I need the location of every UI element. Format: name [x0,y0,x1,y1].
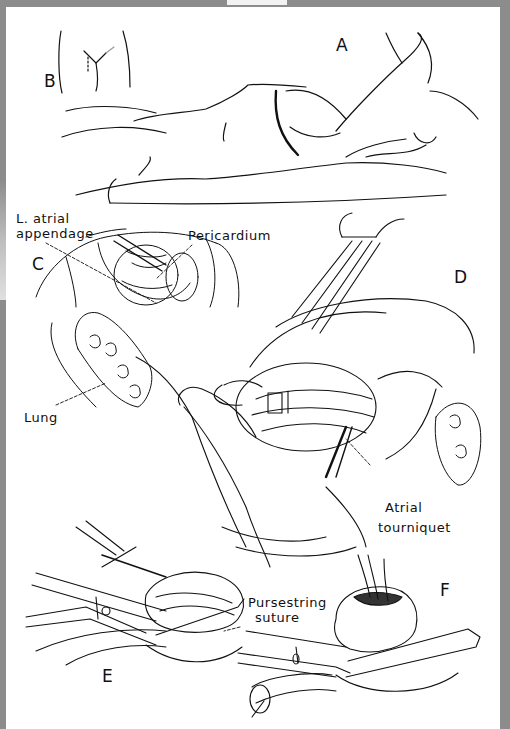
label-lung: Lung [24,411,58,425]
panel-e-drawing [26,521,244,665]
leader-atrial-tourniquet [346,439,370,465]
panel-label-e: E [102,668,113,685]
leader-l-atrial-appendage [46,243,156,303]
panel-label-d: D [454,269,467,286]
leader-lung [56,383,106,405]
panel-label-f: F [440,582,450,599]
label-l-atrial-appendage-line2: appendage [16,227,94,241]
panel-label-c: C [32,256,44,273]
bed-outline [76,157,446,204]
panel-label-b: B [44,73,56,90]
label-pericardium: Pericardium [188,229,271,243]
panel-a-drawing [62,33,478,157]
lung-drawing [51,312,152,407]
label-atrial-tourniquet-line1: Atrial [385,501,422,515]
page-tab [227,0,287,5]
illustration-page: A B C D E F L. atrial appendage Pericard… [6,7,500,729]
surgical-illustration [6,7,500,729]
panel-b-drawing [59,31,130,93]
label-l-atrial-appendage-line1: L. atrial [16,212,70,226]
label-pursestring-suture-line2: suture [255,611,299,625]
panel-label-a: A [336,37,348,54]
lung-right-drawing [435,403,481,485]
label-pursestring-suture-line1: Pursestring [248,596,327,610]
label-atrial-tourniquet-line2: tourniquet [378,521,451,535]
